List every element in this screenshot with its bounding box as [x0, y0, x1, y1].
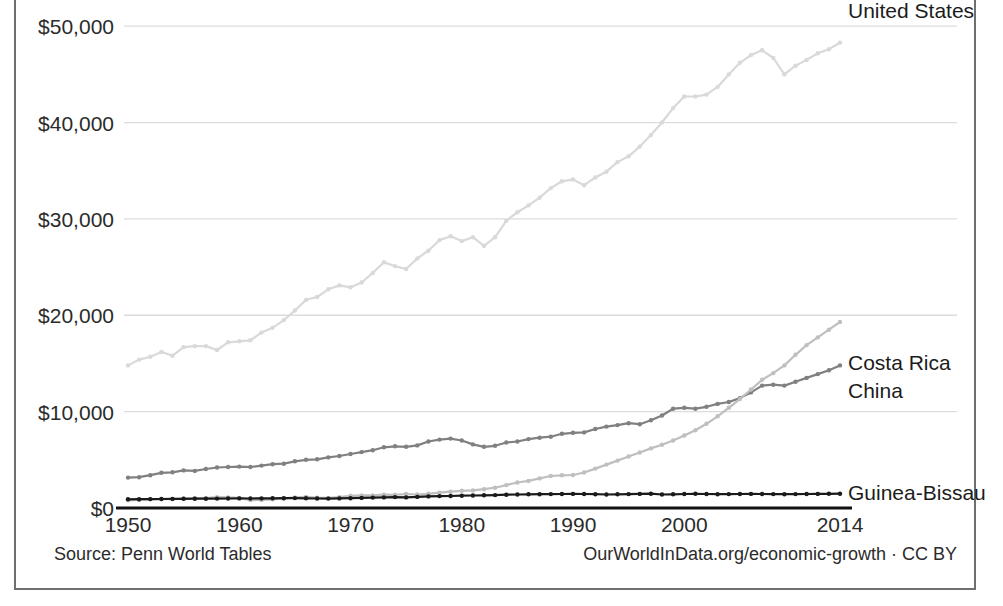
series-point: [504, 493, 508, 497]
series-point: [838, 320, 842, 324]
series-label-costa-rica: Costa Rica: [848, 351, 951, 374]
series-point: [693, 407, 697, 411]
series-point: [148, 355, 152, 359]
gridlines: [124, 26, 957, 411]
series-point: [226, 496, 230, 500]
series-point: [315, 457, 319, 461]
series-point: [549, 492, 553, 496]
x-tick-label: 1990: [550, 513, 597, 536]
y-tick-label: $10,000: [38, 401, 114, 424]
series-point: [816, 492, 820, 496]
series-point: [460, 494, 464, 498]
series-point: [615, 458, 619, 462]
series-point: [626, 454, 630, 458]
series-point: [604, 492, 608, 496]
series-point: [693, 94, 697, 98]
series-point: [259, 330, 263, 334]
series-point: [704, 492, 708, 496]
series-point: [237, 339, 241, 343]
series-point: [471, 493, 475, 497]
series-point: [382, 495, 386, 499]
series-point: [793, 380, 797, 384]
series-point: [537, 476, 541, 480]
series-point: [526, 479, 530, 483]
series-point: [359, 280, 363, 284]
series-point: [204, 467, 208, 471]
series-point: [749, 53, 753, 57]
series-point: [615, 423, 619, 427]
series-point: [515, 439, 519, 443]
series-point: [270, 326, 274, 330]
series-point: [226, 340, 230, 344]
series-point: [193, 344, 197, 348]
series-point: [626, 492, 630, 496]
series-point: [137, 475, 141, 479]
series-point: [148, 497, 152, 501]
series-point: [371, 495, 375, 499]
series-point: [337, 454, 341, 458]
series-point: [827, 328, 831, 332]
series-point: [593, 175, 597, 179]
series-point: [660, 120, 664, 124]
series-point: [304, 496, 308, 500]
series-point: [704, 405, 708, 409]
series-point: [226, 465, 230, 469]
series-point: [159, 350, 163, 354]
series-point: [248, 465, 252, 469]
x-tick-label: 1980: [438, 513, 485, 536]
series-point: [259, 496, 263, 500]
series-point: [571, 492, 575, 496]
series-point: [626, 154, 630, 158]
series-point: [571, 473, 575, 477]
series-point: [215, 465, 219, 469]
series-point: [460, 239, 464, 243]
series-point: [282, 496, 286, 500]
series-point: [404, 495, 408, 499]
series-point: [137, 357, 141, 361]
series-point: [771, 492, 775, 496]
series-point: [704, 92, 708, 96]
series-point: [248, 338, 252, 342]
chart-canvas: $0$10,000$20,000$30,000$40,000$50,000 19…: [0, 0, 1003, 606]
series-point: [727, 400, 731, 404]
series-point: [782, 383, 786, 387]
series-point: [593, 427, 597, 431]
series-point: [649, 133, 653, 137]
series-point: [526, 492, 530, 496]
series-point: [315, 496, 319, 500]
series-point: [671, 492, 675, 496]
x-tick-label: 1950: [105, 513, 152, 536]
series-point: [649, 492, 653, 496]
series-point: [437, 494, 441, 498]
y-axis-tick-labels: $0$10,000$20,000$30,000$40,000$50,000: [38, 15, 114, 520]
series-point: [804, 492, 808, 496]
series-point: [460, 489, 464, 493]
series-point: [682, 94, 686, 98]
series-point: [515, 492, 519, 496]
y-tick-label: $20,000: [38, 304, 114, 327]
series-point: [382, 445, 386, 449]
gdp-per-capita-line-chart: $0$10,000$20,000$30,000$40,000$50,000 19…: [0, 0, 1003, 606]
series-point: [727, 72, 731, 76]
series-point: [482, 445, 486, 449]
series-point: [393, 495, 397, 499]
series-point: [193, 497, 197, 501]
series-point: [393, 444, 397, 448]
series-point: [649, 418, 653, 422]
series-point: [771, 383, 775, 387]
series-point: [315, 295, 319, 299]
series-point: [771, 371, 775, 375]
series-point: [693, 492, 697, 496]
series-point: [727, 406, 731, 410]
series-point: [549, 186, 553, 190]
series-point: [549, 474, 553, 478]
series-point: [593, 466, 597, 470]
series-point: [582, 183, 586, 187]
source-label: Source: Penn World Tables: [54, 544, 271, 564]
series-point: [604, 424, 608, 428]
series-point: [326, 455, 330, 459]
series-point: [337, 283, 341, 287]
series-point: [582, 492, 586, 496]
series-point: [181, 497, 185, 501]
series-point: [671, 407, 675, 411]
